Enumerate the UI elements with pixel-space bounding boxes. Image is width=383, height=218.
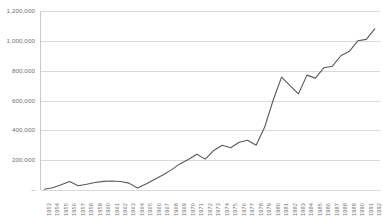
x-axis-tick-label: 1956 <box>66 191 74 217</box>
x-axis-labels: 1953195419551956195719581959196019611962… <box>40 191 379 218</box>
x-axis-tick-label: 1971 <box>193 191 201 217</box>
x-axis-tick-label: 1961 <box>108 191 116 217</box>
x-axis-tick-label: 1960 <box>100 191 108 217</box>
line-chart: –200,000400,000600,000800,0001,000,0001,… <box>0 0 383 218</box>
x-axis-tick-label: 1958 <box>83 191 91 217</box>
x-axis-tick-label: 1970 <box>184 191 192 217</box>
x-axis-tick-label: 1992 <box>371 191 379 217</box>
series-polyline <box>44 29 375 189</box>
x-axis-tick-label: 1962 <box>117 191 125 217</box>
x-axis-tick-label: 1976 <box>235 191 243 217</box>
x-axis-tick-label: 1986 <box>320 191 328 217</box>
x-axis-tick-label: 1953 <box>40 191 48 217</box>
x-axis-tick-label: 1977 <box>244 191 252 217</box>
x-axis-tick-label: 1990 <box>354 191 362 217</box>
x-axis-tick-label: 1969 <box>176 191 184 217</box>
x-axis-tick-label: 1957 <box>74 191 82 217</box>
x-axis-tick-label: 1983 <box>294 191 302 217</box>
x-axis-tick-label: 1967 <box>159 191 167 217</box>
y-axis-labels: –200,000400,000600,000800,0001,000,0001,… <box>0 0 37 218</box>
x-axis-tick-label: 1972 <box>201 191 209 217</box>
x-axis-tick-label: 1964 <box>133 191 141 217</box>
y-axis-tick-label: 400,000 <box>12 126 35 133</box>
x-axis-tick-label: 1982 <box>286 191 294 217</box>
x-axis-tick-label: 1966 <box>150 191 158 217</box>
x-axis-tick-label: 1991 <box>362 191 370 217</box>
x-axis-tick-label: 1985 <box>311 191 319 217</box>
x-axis-tick-label: 1979 <box>261 191 269 217</box>
x-axis-tick-label: 1978 <box>252 191 260 217</box>
x-axis-tick-label: 1973 <box>210 191 218 217</box>
y-axis-tick-label: 1,000,000 <box>7 37 35 44</box>
x-axis-tick-label: 1963 <box>125 191 133 217</box>
x-axis-tick-label: 1975 <box>227 191 235 217</box>
x-axis-tick-label: 1955 <box>57 191 65 217</box>
x-axis-tick-label: 1980 <box>269 191 277 217</box>
y-axis-tick-label: 1,200,000 <box>7 7 35 14</box>
y-axis-tick-label: 800,000 <box>12 67 35 74</box>
x-axis-tick-label: 1984 <box>303 191 311 217</box>
y-axis-tick-label: 200,000 <box>12 156 35 163</box>
x-axis-tick-label: 1974 <box>218 191 226 217</box>
x-axis-tick-label: 1987 <box>328 191 336 217</box>
x-axis-tick-label: 1965 <box>142 191 150 217</box>
x-axis-tick-label: 1959 <box>91 191 99 217</box>
data-series-line <box>40 11 379 190</box>
x-axis-tick-label: 1988 <box>337 191 345 217</box>
x-axis-tick-label: 1981 <box>278 191 286 217</box>
x-axis-tick-label: 1954 <box>49 191 57 217</box>
x-axis-tick-label: 1989 <box>345 191 353 217</box>
y-axis-tick-label: – <box>31 186 35 193</box>
x-axis-tick-label: 1968 <box>167 191 175 217</box>
y-axis-tick-label: 600,000 <box>12 97 35 104</box>
